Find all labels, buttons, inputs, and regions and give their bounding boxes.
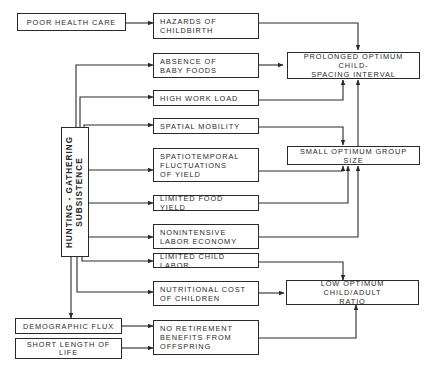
node-label: SMALL OPTIMUM GROUP SIZE: [294, 147, 413, 165]
node-limited-child-labor: LIMITED CHILD LABOR: [153, 253, 259, 268]
node-short-length-of-life: SHORT LENGTH OF LIFE: [15, 338, 122, 359]
node-label: PROLONGED OPTIMUM CHILD- SPACING INTERVA…: [294, 52, 413, 79]
node-hunting-gathering-subsistence: HUNTING - GATHERING SUBSISTENCE: [61, 127, 89, 257]
node-label: NO RETIREMENT BENEFITS FROM OFFSPRING: [160, 324, 233, 351]
node-high-work-load: HIGH WORK LOAD: [153, 90, 259, 106]
node-label: SHORT LENGTH OF LIFE: [27, 341, 110, 357]
node-spatiotemporal-fluctuations: SPATIOTEMPORAL FLUCTUATIONS OF YIELD: [153, 148, 259, 182]
node-absence-of-baby-foods: ABSENCE OF BABY FOODS: [153, 53, 259, 78]
node-label: POOR HEALTH CARE: [27, 18, 116, 27]
node-nonintensive-labor-economy: NONINTENSIVE LABOR ECONOMY: [153, 224, 259, 249]
node-label: LIMITED FOOD YIELD: [160, 194, 252, 212]
node-label: NONINTENSIVE LABOR ECONOMY: [160, 228, 237, 246]
node-demographic-flux: DEMOGRAPHIC FLUX: [15, 318, 122, 334]
node-prolonged-child-spacing-interval: PROLONGED OPTIMUM CHILD- SPACING INTERVA…: [287, 52, 420, 79]
node-nutritional-cost-of-children: NUTRITIONAL COST OF CHILDREN: [153, 281, 259, 306]
node-spatial-mobility: SPATIAL MOBILITY: [153, 118, 259, 134]
node-hazards-of-childbirth: HAZARDS OF CHILDBIRTH: [153, 13, 259, 39]
node-no-retirement-benefits: NO RETIREMENT BENEFITS FROM OFFSPRING: [153, 320, 259, 355]
node-poor-health-care: POOR HEALTH CARE: [17, 13, 126, 31]
node-label: HAZARDS OF CHILDBIRTH: [160, 17, 217, 35]
node-label: SPATIOTEMPORAL FLUCTUATIONS OF YIELD: [160, 152, 239, 179]
node-label: DEMOGRAPHIC FLUX: [23, 322, 114, 331]
node-label: SPATIAL MOBILITY: [160, 122, 240, 131]
node-limited-food-yield: LIMITED FOOD YIELD: [153, 195, 259, 211]
causal-diagram: POOR HEALTH CARE HAZARDS OF CHILDBIRTH A…: [0, 0, 433, 371]
node-label: LIMITED CHILD LABOR: [160, 252, 252, 270]
node-label: NUTRITIONAL COST OF CHILDREN: [160, 285, 246, 303]
node-small-optimum-group-size: SMALL OPTIMUM GROUP SIZE: [287, 146, 420, 165]
node-label: HIGH WORK LOAD: [160, 94, 238, 103]
node-label: LOW OPTIMUM CHILD/ADULT RATIO: [293, 279, 412, 306]
node-low-child-adult-ratio: LOW OPTIMUM CHILD/ADULT RATIO: [286, 280, 419, 305]
node-label: ABSENCE OF BABY FOODS: [160, 57, 217, 75]
node-label: HUNTING - GATHERING SUBSISTENCE: [65, 127, 85, 257]
